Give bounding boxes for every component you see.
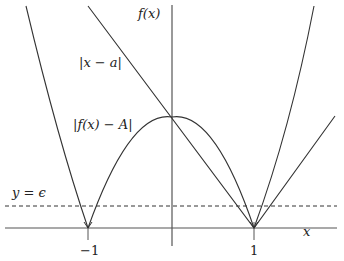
math-diagram: f(x) |x − a| |f(x) − A| y = ϵ x −1 1 (0, 0, 344, 261)
y-axis-label: f(x) (138, 7, 160, 20)
x-axis-label: x (303, 225, 310, 238)
epsilon-line-label: y = ϵ (12, 186, 46, 199)
tick-label-pos-one: 1 (250, 244, 258, 257)
outer-curve-right (254, 6, 314, 228)
abs-x-minus-a-label: |x − a| (79, 56, 122, 69)
zero-marker-neg-one (84, 222, 92, 228)
abs-f-minus-A-curve (88, 117, 254, 228)
tick-label-neg-one: −1 (80, 244, 99, 257)
abs-f-minus-A-label: |f(x) − A| (73, 118, 133, 131)
diagram-canvas (0, 0, 344, 261)
